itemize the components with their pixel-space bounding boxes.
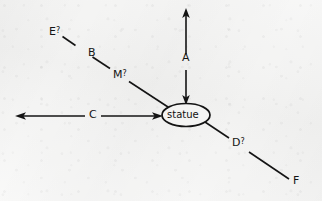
edge-label-c: C [89,109,97,120]
edge-nw-segment-m-to-statue [129,82,168,108]
edge-nw-segment-e-to-b [63,37,76,46]
edge-label-e-letter: E [49,25,56,38]
edge-label-e-mark: ? [56,26,60,35]
diagram-canvas: statue A B C D? E? F M? [0,0,322,201]
edge-label-f: F [293,175,299,186]
edge-label-m-mark: ? [123,69,127,78]
edge-se-segment-statue-to-d [205,122,229,138]
edge-label-m-letter: M [113,68,123,81]
edge-label-b: B [88,47,96,58]
edge-label-d: D? [232,137,245,148]
edge-southeast-diagonal [205,122,289,179]
edge-label-m: M? [113,69,127,80]
statue-label: statue [167,110,199,120]
edge-label-e: E? [49,26,60,37]
edge-label-d-mark: ? [240,137,244,146]
edge-se-segment-d-to-f [249,152,289,179]
edge-label-a: A [182,52,190,63]
